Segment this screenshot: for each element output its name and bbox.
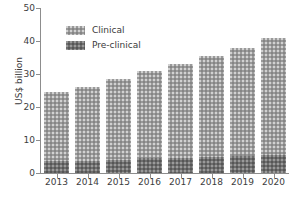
bar-group — [168, 64, 193, 173]
legend-item: Pre-clinical — [66, 39, 141, 51]
y-tick-mark — [36, 74, 40, 75]
bar-segment-preclinical — [75, 161, 100, 173]
x-tick-mark — [274, 174, 275, 178]
x-tick-mark — [243, 174, 244, 178]
bar-segment-clinical — [168, 64, 193, 157]
bar-segment-clinical — [261, 38, 286, 155]
y-tick-label: 10 — [9, 136, 35, 145]
bar-group — [199, 56, 224, 173]
bar-group — [44, 92, 69, 173]
x-tick-mark — [119, 174, 120, 178]
y-tick-mark — [36, 107, 40, 108]
y-tick-label: 50 — [9, 4, 35, 13]
bar-group — [137, 71, 162, 173]
y-tick-label: 30 — [9, 70, 35, 79]
bar-segment-clinical — [106, 79, 131, 160]
bar-chart: US$ billion 01020304050 2013201420152016… — [0, 0, 294, 202]
bar-group — [106, 79, 131, 173]
bar-segment-preclinical — [199, 157, 224, 173]
legend-swatch-icon — [66, 41, 85, 50]
bar-segment-preclinical — [261, 155, 286, 173]
bar-segment-clinical — [199, 56, 224, 157]
x-tick-mark — [212, 174, 213, 178]
x-tick-mark — [150, 174, 151, 178]
x-tick-label: 2020 — [254, 177, 294, 187]
y-tick-label: 20 — [9, 103, 35, 112]
bar-group — [261, 38, 286, 173]
x-axis-line — [40, 173, 289, 174]
x-tick-mark — [88, 174, 89, 178]
legend-label: Clinical — [92, 25, 124, 35]
y-tick-mark — [36, 140, 40, 141]
bar-segment-preclinical — [106, 160, 131, 173]
chart-legend: ClinicalPre-clinical — [66, 24, 141, 54]
x-tick-mark — [181, 174, 182, 178]
bar-segment-clinical — [44, 92, 69, 161]
y-tick-label: 0 — [9, 169, 35, 178]
bar-group — [230, 48, 255, 173]
bar-segment-clinical — [75, 87, 100, 161]
legend-swatch-icon — [66, 26, 85, 35]
legend-label: Pre-clinical — [92, 40, 141, 50]
bar-group — [75, 87, 100, 173]
bar-segment-clinical — [230, 48, 255, 156]
bar-segment-preclinical — [230, 156, 255, 173]
bar-segment-preclinical — [137, 158, 162, 173]
x-tick-mark — [57, 174, 58, 178]
legend-item: Clinical — [66, 24, 141, 36]
bar-segment-preclinical — [44, 161, 69, 173]
y-tick-label: 40 — [9, 37, 35, 46]
y-tick-mark — [36, 41, 40, 42]
y-tick-mark — [36, 173, 40, 174]
bar-segment-clinical — [137, 71, 162, 159]
bar-segment-preclinical — [168, 158, 193, 174]
y-tick-mark — [36, 8, 40, 9]
